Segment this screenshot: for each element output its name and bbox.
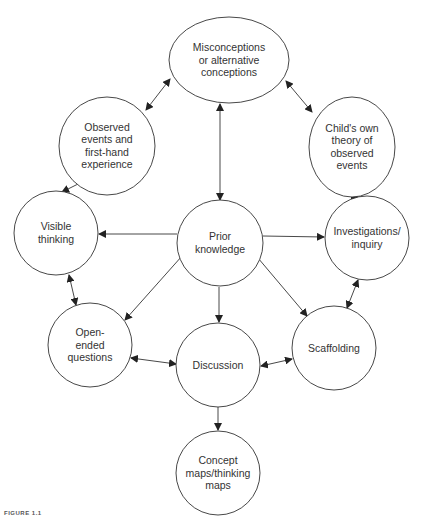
node-open-ended: Open-endedquestions xyxy=(48,303,132,387)
node-prior-knowledge: Priorknowledge xyxy=(177,200,263,286)
node-label: observed xyxy=(330,147,373,159)
node-label: thinking xyxy=(38,233,74,245)
node-label: Discussion xyxy=(193,359,244,371)
node-concept-maps: Conceptmaps/thinkingmaps xyxy=(176,431,260,515)
edge-visible-thinking-to-open-ended xyxy=(69,275,76,305)
node-label: Concept xyxy=(198,454,237,466)
node-childs-theory: Child's owntheory ofobservedevents xyxy=(309,97,395,197)
node-label: knowledge xyxy=(195,243,245,255)
edge-prior-knowledge-to-investigations xyxy=(263,236,324,237)
edge-investigations-to-scaffolding xyxy=(347,280,358,308)
node-investigations: Investigations/inquiry xyxy=(325,196,409,280)
edge-misconceptions-to-observed xyxy=(146,79,170,110)
edge-open-ended-to-discussion xyxy=(131,358,176,364)
node-label: Visible xyxy=(41,220,72,232)
node-label: maps xyxy=(205,479,231,491)
node-label: Misconceptions xyxy=(193,41,265,53)
edge-prior-knowledge-to-scaffolding xyxy=(258,258,307,316)
node-label: or alternative xyxy=(199,54,260,66)
node-label: Child's own xyxy=(325,122,379,134)
node-misconceptions: Misconceptionsor alternativeconceptions xyxy=(169,17,289,103)
node-label: Open- xyxy=(75,326,105,338)
node-label: Investigations/ xyxy=(333,225,400,237)
node-label: maps/thinking xyxy=(186,467,251,479)
node-label: conceptions xyxy=(201,66,257,78)
node-visible-thinking: Visiblethinking xyxy=(14,191,98,275)
node-label: Prior xyxy=(209,230,232,242)
figure-caption: FIGURE 1.1 xyxy=(4,510,42,516)
edge-prior-knowledge-to-open-ended xyxy=(125,256,182,320)
node-label: events xyxy=(337,159,368,171)
node-discussion: Discussion xyxy=(176,323,260,407)
node-scaffolding: Scaffolding xyxy=(292,306,376,390)
node-label: questions xyxy=(68,351,113,363)
node-label: first-hand xyxy=(85,146,129,158)
edge-observed-to-visible-thinking xyxy=(62,184,78,192)
concept-map-diagram: Misconceptionsor alternativeconceptionsO… xyxy=(0,0,422,522)
node-label: inquiry xyxy=(352,238,384,250)
nodes-layer: Misconceptionsor alternativeconceptionsO… xyxy=(14,17,409,515)
node-label: experience xyxy=(81,158,133,170)
node-label: theory of xyxy=(332,134,373,146)
node-label: Scaffolding xyxy=(308,342,360,354)
node-label: events and xyxy=(81,133,133,145)
edge-misconceptions-to-childs-theory xyxy=(286,81,312,112)
edge-discussion-to-scaffolding xyxy=(261,359,292,366)
node-label: ended xyxy=(75,339,104,351)
node-label: Observed xyxy=(84,121,130,133)
node-observed: Observedevents andfirst-handexperience xyxy=(59,97,155,195)
